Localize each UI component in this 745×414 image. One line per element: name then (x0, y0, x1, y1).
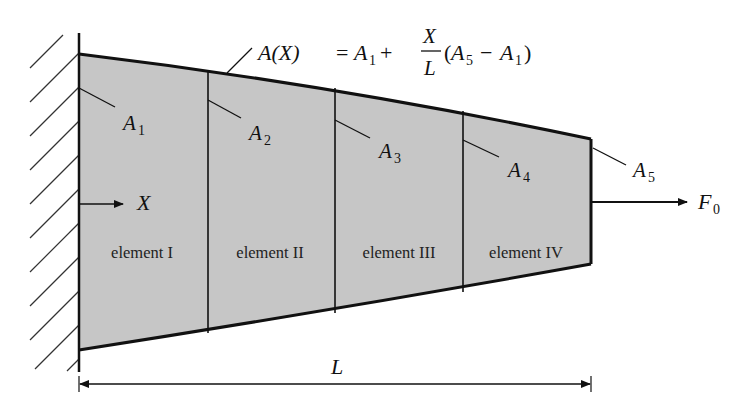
svg-text:A: A (352, 40, 368, 65)
area-label-a5: A 5 (631, 158, 655, 185)
length-label: L (330, 354, 343, 379)
hatched-wall-icon (30, 35, 79, 371)
svg-text:2: 2 (264, 133, 271, 148)
tapered-bar-diagram: A 1 A 2 A 3 A 4 A 5 A(X) = A 1 + X L ( A… (0, 0, 745, 414)
svg-text:5: 5 (648, 170, 655, 185)
svg-text:1: 1 (138, 123, 145, 138)
area-formula: A(X) = A 1 + X L ( A 5 − A 1 ) (256, 24, 531, 80)
element-label-3: element III (363, 243, 436, 262)
x-axis-label: X (136, 190, 152, 215)
svg-text:L: L (423, 56, 436, 80)
svg-text:4: 4 (523, 170, 530, 185)
svg-text:+: + (380, 40, 392, 65)
svg-text:0: 0 (713, 202, 720, 217)
svg-text:1: 1 (369, 53, 376, 68)
element-label-2: element II (236, 243, 303, 262)
element-label-1: element I (111, 243, 173, 262)
svg-text:A: A (377, 139, 392, 163)
svg-text:A: A (121, 111, 136, 135)
element-label-4: element IV (489, 243, 563, 262)
svg-text:A: A (506, 158, 521, 182)
svg-text:F: F (697, 189, 712, 214)
svg-text:A: A (449, 40, 465, 65)
svg-text:): ) (524, 40, 531, 65)
svg-text:A: A (498, 40, 514, 65)
svg-text:5: 5 (466, 53, 473, 68)
svg-text:A: A (631, 158, 646, 182)
svg-text:A: A (247, 121, 262, 145)
force-label: F 0 (697, 189, 720, 217)
svg-text:−: − (480, 40, 492, 65)
svg-text:3: 3 (394, 151, 401, 166)
svg-text:1: 1 (515, 53, 522, 68)
svg-text:=: = (336, 40, 348, 65)
svg-text:X: X (422, 24, 437, 48)
svg-text:A(X): A(X) (256, 40, 300, 65)
